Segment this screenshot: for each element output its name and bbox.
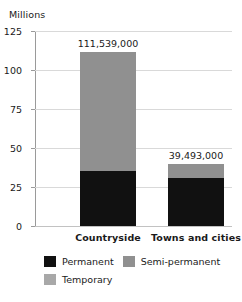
y-tick-label-75: 75: [0, 104, 22, 115]
legend-label: Temporary: [62, 274, 112, 285]
y-tick-mark-75: [31, 109, 35, 110]
bar-total-label: 111,539,000: [78, 38, 138, 49]
bar-stack[interactable]: [168, 164, 224, 226]
y-tick-label-0: 0: [0, 221, 22, 232]
y-tick-mark-125: [31, 31, 35, 32]
bar-segment-permanent[interactable]: [168, 178, 224, 226]
y-tick-mark-25: [31, 187, 35, 188]
bar-stack[interactable]: [80, 52, 136, 226]
legend-row-primary: PermanentSemi-permanent: [44, 256, 229, 267]
bar-total-label: 39,493,000: [169, 150, 223, 161]
x-axis-label-countryside: Countryside: [75, 232, 141, 243]
y-tick-mark-50: [31, 148, 35, 149]
y-tick-label-125: 125: [0, 26, 22, 37]
legend-item-permanent[interactable]: Permanent: [44, 256, 114, 267]
gridline-125: [35, 31, 232, 32]
legend-swatch-icon: [44, 274, 56, 285]
legend-row-secondary: Temporary: [44, 274, 121, 285]
plot-area: 0255075100125111,539,00039,493,000: [35, 31, 232, 226]
legend-swatch-icon: [123, 256, 135, 267]
y-tick-mark-0: [31, 226, 35, 227]
bar-segment-permanent[interactable]: [80, 171, 136, 226]
y-tick-mark-100: [31, 70, 35, 71]
y-tick-label-100: 100: [0, 65, 22, 76]
legend-item-temporary[interactable]: Temporary: [44, 274, 112, 285]
legend-label: Permanent: [62, 256, 114, 267]
stacked-bar-chart: Millions 0255075100125111,539,00039,493,…: [0, 0, 242, 302]
x-axis-label-towns-and-cities: Towns and cities: [151, 232, 241, 243]
bar-segment-semi-permanent[interactable]: [80, 52, 136, 171]
y-tick-label-25: 25: [0, 182, 22, 193]
y-axis-unit-caption: Millions: [9, 9, 45, 20]
legend-label: Semi-permanent: [141, 256, 221, 267]
bar-segment-semi-permanent[interactable]: [168, 164, 224, 178]
legend-item-semi-permanent[interactable]: Semi-permanent: [123, 256, 221, 267]
y-tick-label-50: 50: [0, 143, 22, 154]
legend-swatch-icon: [44, 256, 56, 267]
